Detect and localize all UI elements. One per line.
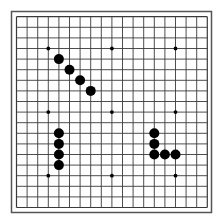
black-stone[interactable] xyxy=(54,139,64,149)
star-point xyxy=(174,110,178,114)
black-stone[interactable] xyxy=(54,54,64,64)
go-board[interactable] xyxy=(0,0,219,223)
star-point xyxy=(110,110,114,114)
star-point xyxy=(110,174,114,178)
black-stone[interactable] xyxy=(65,65,75,75)
black-stone[interactable] xyxy=(54,128,64,138)
black-stone[interactable] xyxy=(149,128,159,138)
black-stone[interactable] xyxy=(149,150,159,160)
star-point xyxy=(174,47,178,51)
black-stone[interactable] xyxy=(160,150,170,160)
black-stone[interactable] xyxy=(54,160,64,170)
star-point xyxy=(46,47,50,51)
black-stone[interactable] xyxy=(171,150,181,160)
star-point xyxy=(174,174,178,178)
star-point xyxy=(46,174,50,178)
star-point xyxy=(110,47,114,51)
star-point xyxy=(46,110,50,114)
black-stone[interactable] xyxy=(86,86,96,96)
black-stone[interactable] xyxy=(75,75,85,85)
black-stone[interactable] xyxy=(149,139,159,149)
black-stone[interactable] xyxy=(54,150,64,160)
